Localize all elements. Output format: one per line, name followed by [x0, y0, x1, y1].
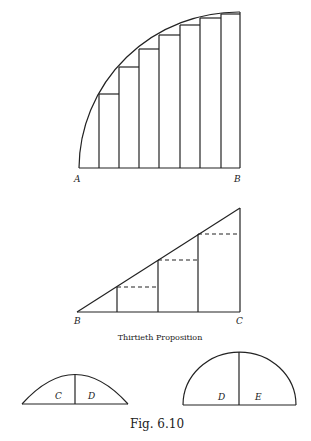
label-a: A [73, 174, 81, 184]
label-d-segment-large: D [217, 392, 225, 402]
label-c-segment: C [55, 391, 62, 401]
small-segment-diagram [22, 374, 128, 404]
label-c-triangle: C [236, 316, 243, 326]
figure-caption: Fig. 6.10 [130, 417, 184, 431]
triangle-diagram [77, 208, 240, 312]
quarter-circle-diagram [79, 12, 240, 168]
label-e-segment: E [254, 392, 262, 402]
label-b-triangle: B [73, 316, 81, 326]
proposition-caption: Thirtieth Proposition [118, 333, 203, 342]
large-segment-diagram [183, 352, 296, 405]
label-d-segment-small: D [87, 391, 95, 401]
figure-canvas: A B B C Thirtieth Proposition C D D E Fi… [0, 0, 311, 441]
label-b-top: B [233, 174, 241, 184]
